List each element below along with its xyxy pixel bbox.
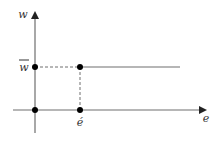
threshold-label: é <box>77 116 84 129</box>
point-w-bar-on-axis <box>32 64 38 70</box>
point-origin <box>32 107 38 113</box>
y-axis-label: w <box>18 8 28 21</box>
point-threshold-on-axis <box>77 107 83 113</box>
point-kink <box>77 64 83 70</box>
w-bar-label: w <box>19 61 29 74</box>
diagram-canvas: w w é e <box>0 0 222 141</box>
x-axis-label: e <box>203 112 210 125</box>
